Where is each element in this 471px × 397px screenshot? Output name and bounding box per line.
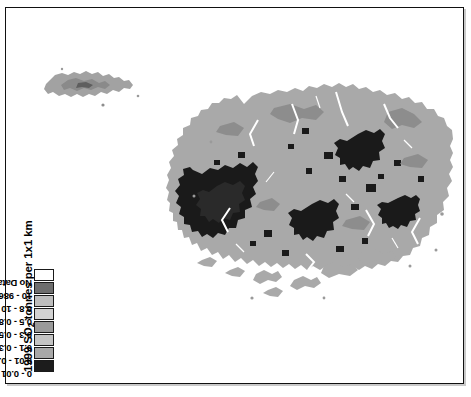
legend-entry-label: 0.5 - 0.8 xyxy=(0,317,32,328)
legend-entry-swatch xyxy=(34,334,54,346)
legend-entry-label: 0.01 - 0.1 xyxy=(0,356,32,367)
legend-entry-label: 0 - 0.01 xyxy=(1,369,32,380)
legend-entry-swatch xyxy=(34,360,54,372)
legend-entry-label: 0.1 - 0.3 xyxy=(0,343,32,354)
legend-entry-label: 0.8 - 10 xyxy=(1,304,32,315)
legend-entry-label: 10 - 98630 xyxy=(0,291,32,302)
map-legend: 1999 SO2 tonnes per 1x1 km 0 - 0.01 0.01… xyxy=(20,176,112,372)
figure-frame: 1999 SO2 tonnes per 1x1 km 0 - 0.01 0.01… xyxy=(5,7,464,384)
legend-entry-swatch xyxy=(34,321,54,333)
legend-entry-swatch xyxy=(34,295,54,307)
legend-entry-swatch xyxy=(34,308,54,320)
legend-entry-swatch xyxy=(34,282,54,294)
map-mainland xyxy=(166,83,453,300)
legend-entry-label: 0.3 - 0.5 xyxy=(0,330,32,341)
legend-entry-swatch xyxy=(34,269,54,281)
legend-entry-label: No Data xyxy=(0,278,32,289)
legend-entry-swatch xyxy=(34,347,54,359)
map-island-northwest xyxy=(44,68,139,107)
